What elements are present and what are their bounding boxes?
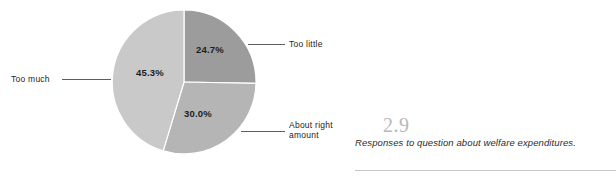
leader-line-too-little <box>248 44 285 45</box>
caption-divider-rule <box>355 170 616 171</box>
slice-value-about-right: 30.0% <box>184 108 212 119</box>
slice-value-too-little: 24.7% <box>196 44 224 55</box>
figure-caption-text: Responses to question about welfare expe… <box>355 137 616 149</box>
callout-label-about-right: About right amount <box>289 120 345 140</box>
callout-label-about-right-line2: amount <box>289 130 319 140</box>
pie-chart: 24.7% 30.0% 45.3% <box>112 10 256 154</box>
leader-line-about-right <box>241 131 285 132</box>
slice-value-too-much: 45.3% <box>136 67 164 78</box>
figure-welfare-expenditures: 24.7% 30.0% 45.3% Too much Too little Ab… <box>0 0 616 178</box>
leader-line-too-much <box>62 79 111 80</box>
callout-label-about-right-line1: About right <box>289 120 333 130</box>
callout-label-too-little: Too little <box>289 39 323 49</box>
figure-caption-block: 2.9 Responses to question about welfare … <box>355 114 616 149</box>
figure-number: 2.9 <box>383 114 616 136</box>
callout-label-too-much: Too much <box>11 74 50 84</box>
pie-chart-svg: 24.7% 30.0% 45.3% <box>112 10 256 154</box>
